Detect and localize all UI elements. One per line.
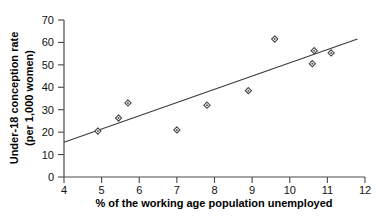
y-tick-label: 20 (42, 126, 54, 138)
y-tick-label: 60 (42, 36, 54, 48)
x-tick-label: 4 (61, 184, 67, 196)
data-point-center (206, 104, 208, 106)
x-tick-label: 6 (136, 184, 142, 196)
x-tick-label: 12 (359, 184, 371, 196)
x-tick-label: 8 (211, 184, 217, 196)
data-point-center (274, 38, 276, 40)
x-tick-label: 10 (284, 184, 296, 196)
data-point-center (311, 63, 313, 65)
y-tick-label: 40 (42, 81, 54, 93)
y-axis-title: Under-18 conception rate (per 1,000 wome… (8, 32, 35, 165)
data-point-center (127, 102, 129, 104)
x-tick-label: 7 (174, 184, 180, 196)
data-point-center (97, 130, 99, 132)
data-point-center (330, 52, 332, 54)
y-axis-title-line1: Under-18 conception rate (8, 32, 20, 165)
x-tick-label: 11 (322, 184, 333, 196)
y-tick-label: 30 (42, 104, 54, 116)
scatter-chart: Under-18 conception rate (per 1,000 wome… (0, 0, 382, 220)
y-axis-title-line2: (per 1,000 women) (23, 50, 35, 146)
y-tick-label: 70 (42, 14, 54, 26)
data-point-center (313, 50, 315, 52)
data-point-center (176, 129, 178, 131)
chart-canvas: Under-18 conception rate (per 1,000 wome… (0, 0, 382, 220)
x-axis-title: % of the working age population unemploy… (95, 197, 332, 209)
x-tick-label: 9 (249, 184, 255, 196)
y-tick-label: 50 (42, 59, 54, 71)
trend-line (64, 39, 357, 142)
y-tick-label: 0 (48, 171, 54, 183)
data-point-center (247, 90, 249, 92)
y-tick-label: 10 (42, 149, 54, 161)
x-axis-ticks: 456789101112 (61, 177, 371, 196)
y-axis-ticks: 010203040506070 (42, 14, 64, 183)
x-tick-label: 5 (99, 184, 105, 196)
data-point-center (118, 117, 120, 119)
